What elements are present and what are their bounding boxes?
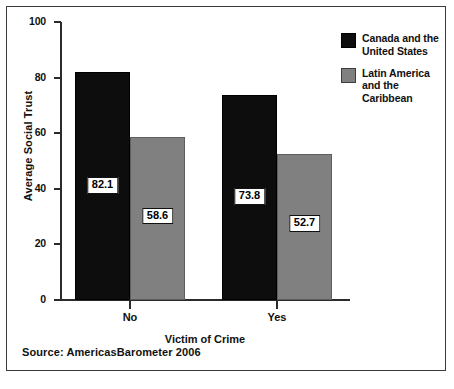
y-tick-label: 40 xyxy=(0,182,46,194)
plot-area: 82.158.673.852.7 xyxy=(60,22,348,300)
bar-value-label: 52.7 xyxy=(289,215,320,232)
bar-value-label: 82.1 xyxy=(87,177,118,194)
source-note: Source: AmericasBarometer 2006 xyxy=(22,346,201,358)
legend-label: Canada and the United States xyxy=(362,32,445,58)
bar-value-label: 73.8 xyxy=(234,188,265,205)
chart-figure: Average Social Trust 020406080100 82.158… xyxy=(0,0,454,389)
y-tick-label: 0 xyxy=(0,293,46,305)
bar-no-series-1: 58.6 xyxy=(130,137,185,300)
bar-yes-series-1: 52.7 xyxy=(277,154,332,301)
x-tick-mark xyxy=(129,301,131,309)
legend-label: Latin America and the Caribbean xyxy=(362,67,445,105)
caption-sliver xyxy=(0,379,454,389)
bar-no-series-0: 82.1 xyxy=(75,72,130,300)
x-tick-label-yes: Yes xyxy=(242,311,312,323)
bar-value-label: 58.6 xyxy=(142,208,173,225)
y-tick-label: 20 xyxy=(0,237,46,249)
legend-swatch-icon xyxy=(341,33,356,48)
legend-swatch-icon xyxy=(341,68,356,83)
legend-entry-1: Latin America and the Caribbean xyxy=(341,67,445,105)
x-axis-title: Victim of Crime xyxy=(60,333,350,345)
legend-entry-0: Canada and the United States xyxy=(341,32,445,58)
x-tick-label-no: No xyxy=(95,311,165,323)
y-axis-title: Average Social Trust xyxy=(22,26,34,266)
y-tick-label: 100 xyxy=(0,15,46,27)
x-tick-mark xyxy=(276,301,278,309)
y-tick-label: 60 xyxy=(0,126,46,138)
y-tick-label: 80 xyxy=(0,71,46,83)
bar-yes-series-0: 73.8 xyxy=(222,95,277,300)
chart-legend: Canada and the United StatesLatin Americ… xyxy=(341,32,445,114)
